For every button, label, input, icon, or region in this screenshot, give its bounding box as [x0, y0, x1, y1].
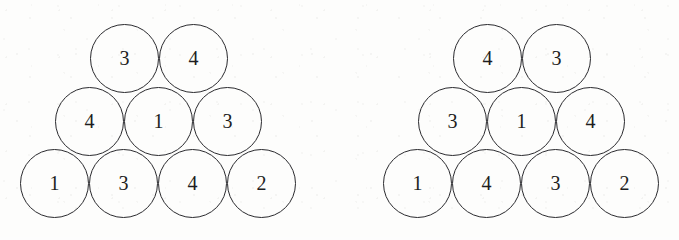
- circle-value-label: 4: [187, 173, 197, 193]
- numbered-circle: 1: [124, 87, 193, 156]
- numbered-circle: 3: [522, 24, 591, 93]
- circle-value-label: 1: [516, 111, 526, 131]
- circle-value-label: 3: [222, 111, 232, 131]
- circle-value-label: 1: [49, 173, 59, 193]
- circle-value-label: 2: [256, 173, 266, 193]
- circle-value-label: 3: [118, 173, 128, 193]
- circle-value-label: 1: [153, 111, 163, 131]
- circle-value-label: 4: [482, 48, 492, 68]
- numbered-circle: 3: [193, 87, 262, 156]
- circle-value-label: 3: [119, 48, 129, 68]
- numbered-circle: 4: [453, 24, 522, 93]
- circle-value-label: 3: [550, 173, 560, 193]
- circle-value-label: 4: [84, 111, 94, 131]
- circle-value-label: 3: [551, 48, 561, 68]
- numbered-circle: 2: [227, 149, 296, 218]
- numbered-circle: 1: [20, 149, 89, 218]
- numbered-circle: 4: [158, 149, 227, 218]
- circle-value-label: 4: [188, 48, 198, 68]
- numbered-circle: 4: [159, 24, 228, 93]
- circle-value-label: 4: [585, 111, 595, 131]
- numbered-circle: 3: [418, 87, 487, 156]
- numbered-circle: 4: [452, 149, 521, 218]
- numbered-circle: 1: [383, 149, 452, 218]
- circle-value-label: 2: [619, 173, 629, 193]
- numbered-circle: 3: [90, 24, 159, 93]
- numbered-circle: 4: [55, 87, 124, 156]
- circle-value-label: 4: [481, 173, 491, 193]
- circle-value-label: 1: [412, 173, 422, 193]
- numbered-circle: 3: [521, 149, 590, 218]
- numbered-circle: 4: [556, 87, 625, 156]
- circle-value-label: 3: [447, 111, 457, 131]
- numbered-circle: 3: [89, 149, 158, 218]
- numbered-circle: 1: [487, 87, 556, 156]
- numbered-circle: 2: [590, 149, 659, 218]
